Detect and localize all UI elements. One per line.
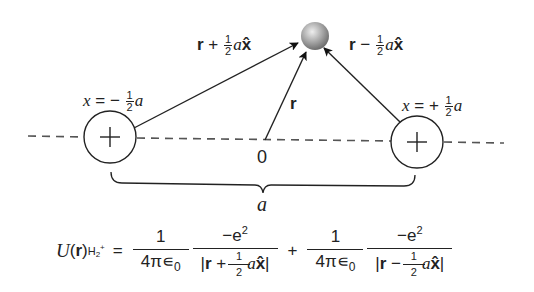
h2-plus-subscript: H2+ (88, 243, 105, 259)
electron-sphere (301, 22, 329, 50)
term1-charge-fraction: −e2 |r + 12ax̂| (197, 224, 274, 278)
separation-brace (111, 172, 415, 193)
half-fraction: 12 (376, 34, 384, 57)
separation-label: a (257, 194, 267, 214)
vector-r (265, 52, 306, 140)
term2-coefficient: 1 4π∊0 (311, 227, 359, 274)
potential-equation: U(r)H2+ = 1 4π∊0 −e2 |r + 12ax̂| + 1 4π∊… (56, 224, 454, 278)
right-nucleus-position: x = + 12a (402, 95, 462, 118)
left-nucleus-position: x = − 12a (83, 90, 143, 113)
r-vector-label: r (290, 95, 297, 112)
nucleus-right (391, 116, 443, 168)
right-vector-label: r − 12ax̂ (349, 34, 403, 57)
vector-r-minus (324, 48, 400, 122)
term2-charge-fraction: −e2 |r − 12ax̂| (371, 224, 448, 278)
term1-coefficient: 1 4π∊0 (137, 227, 185, 274)
half-fraction: 12 (224, 34, 232, 57)
nucleus-left (84, 111, 136, 163)
left-vector-label: r + 12ax̂ (197, 34, 251, 57)
origin-label: 0 (257, 148, 267, 166)
